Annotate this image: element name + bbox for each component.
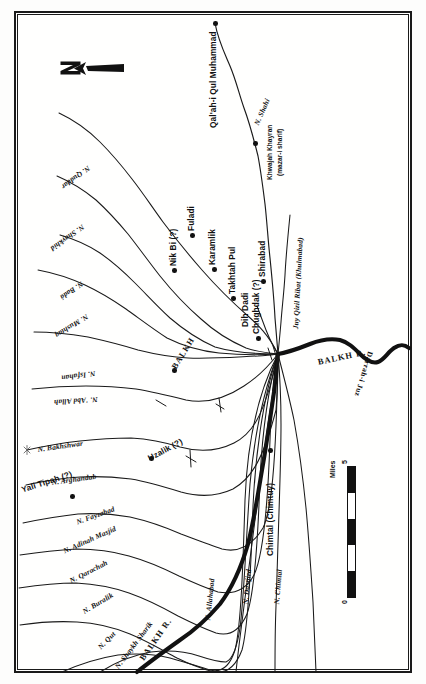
settlement-dot [231, 296, 236, 301]
canal-line-n-bakhshwar [27, 354, 278, 450]
canal-line-n-chimtal [278, 354, 316, 672]
settlement-dot [268, 448, 273, 453]
map-drawing-canvas [0, 0, 426, 684]
north-arrow-icon [74, 62, 124, 75]
settlement-dot [70, 494, 75, 499]
canal-line-n-fayzabad [23, 354, 278, 550]
settlement-dot [190, 233, 195, 238]
diversion-tick-7 [156, 400, 166, 406]
canal-line-juy-qizil-ribat [278, 215, 290, 354]
canal-line-n-bada [60, 235, 278, 354]
canal-line-n-quddar [59, 113, 278, 354]
settlement-dot [253, 141, 258, 146]
settlement-dot [172, 368, 177, 373]
settlement-dot [149, 456, 154, 461]
settlement-dot [213, 21, 218, 26]
settlement-dot [212, 267, 217, 272]
canal-line-n-mushtaq [38, 270, 278, 355]
canal-line-n-shahi [215, 23, 278, 354]
canal-line-n-abd-allah [32, 354, 278, 401]
diversion-tick-6 [190, 450, 191, 467]
scale-bar-track [347, 466, 356, 598]
settlement-dot [261, 279, 266, 284]
canal-line-n-adinah-masjid [20, 354, 278, 593]
north-arrow [56, 52, 136, 90]
canal-line-n-qarachah [19, 354, 278, 634]
settlement-dot [172, 268, 177, 273]
scale-bar-segment [348, 467, 355, 493]
river-line-balkh-r-east [278, 339, 409, 362]
scale-bar-segment [348, 571, 355, 597]
canal-line-n-dastjird [275, 354, 281, 672]
canal-line-n-allahabad [236, 354, 278, 672]
settlement-dot [256, 336, 261, 341]
diversion-tick-4 [219, 398, 221, 412]
canal-line-n-shaykh-sharik [100, 354, 278, 672]
canal-line-n-shaykhid [57, 176, 278, 354]
canal-line-n-arghandab [26, 354, 278, 495]
scale-bar-segment [348, 519, 355, 545]
map-root: Qal'ah-i Qul Muhammad Khwajah Khayran (m… [0, 0, 426, 684]
